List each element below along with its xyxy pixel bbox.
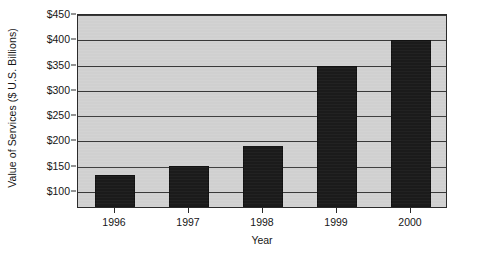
bar-1999 (317, 66, 357, 207)
y-axis-tick-mark (71, 64, 76, 65)
bar-1998 (243, 146, 283, 207)
y-axis-tick-labels: $100$150$200$250$300$350$400$450 (24, 0, 76, 215)
x-axis-tick-label: 1996 (102, 216, 125, 228)
y-axis-tick-label: $400 (47, 33, 70, 45)
y-axis-tick-mark (71, 14, 76, 15)
y-axis-tick-mark (71, 165, 76, 166)
y-axis-tick-label: $250 (47, 109, 70, 121)
y-axis-tick-label: $200 (47, 134, 70, 146)
y-axis-tick-label: $100 (47, 185, 70, 197)
bar-1996 (95, 175, 135, 207)
y-axis-tick-mark (71, 39, 76, 40)
bar-chart-figure: Value of Services ($ U.S. Billions) $100… (0, 0, 484, 264)
x-axis-tick-label: 1999 (324, 216, 347, 228)
y-axis-title: Value of Services ($ U.S. Billions) (0, 0, 24, 215)
bar-1997 (169, 166, 209, 207)
y-axis-tick-label: $300 (47, 84, 70, 96)
y-axis-title-text: Value of Services ($ U.S. Billions) (6, 28, 18, 188)
y-axis-tick-label: $450 (47, 8, 70, 20)
y-axis-tick-label: $150 (47, 160, 70, 172)
x-axis-tick-label: 1998 (250, 216, 273, 228)
x-axis-tick-mark (188, 208, 189, 213)
x-axis-tick-mark (114, 208, 115, 213)
x-axis-tick-mark (336, 208, 337, 213)
y-axis-tick-mark (71, 190, 76, 191)
x-axis-title: Year (77, 234, 447, 246)
x-axis-tick-label: 2000 (398, 216, 421, 228)
x-axis-tick-mark (410, 208, 411, 213)
gridline (78, 15, 446, 16)
x-axis-tick-label: 1997 (176, 216, 199, 228)
plot-area (77, 14, 447, 208)
x-axis-tick-mark (262, 208, 263, 213)
y-axis-tick-mark (71, 115, 76, 116)
y-axis-tick-mark (71, 140, 76, 141)
y-axis-tick-label: $350 (47, 59, 70, 71)
y-axis-tick-mark (71, 89, 76, 90)
bar-2000 (391, 40, 431, 207)
